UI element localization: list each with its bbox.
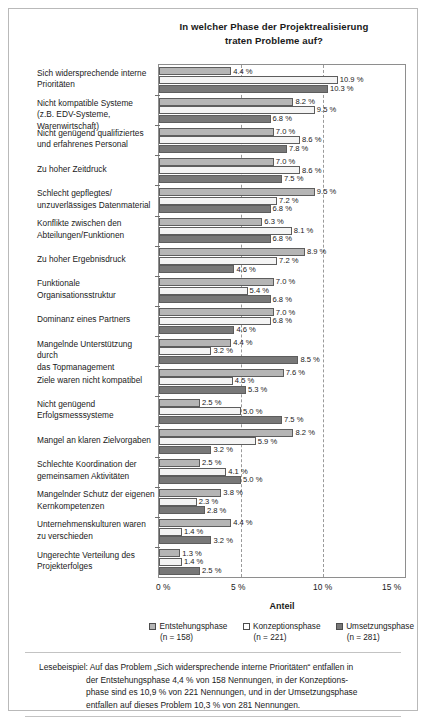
axis-tick-3 (155, 155, 160, 156)
bar-16-0[interactable] (159, 549, 180, 557)
footer-line-2: der Entstehungsphase 4,4 % von 158 Nennu… (39, 674, 394, 687)
bar-value-label-3-2: 7.5 % (284, 175, 303, 183)
category-label-14-line-0: Mangelnder Schutz der eigenen (37, 489, 155, 500)
bar-2-0[interactable] (159, 128, 274, 136)
bar-1-1[interactable] (159, 106, 315, 114)
bar-value-label-12-0: 8.2 % (295, 429, 314, 437)
bar-10-1[interactable] (159, 377, 233, 385)
bar-12-0[interactable] (159, 429, 293, 437)
bar-11-1[interactable] (159, 407, 241, 415)
axis-tick-12 (155, 426, 160, 427)
category-label-0: Sich widersprechende internePrioritäten (37, 68, 155, 91)
bar-9-1[interactable] (159, 347, 211, 355)
category-label-2-line-1: und erfahrenes Personal (37, 139, 155, 150)
bar-7-0[interactable] (159, 278, 274, 286)
bar-value-label-5-0: 6.3 % (264, 218, 283, 226)
bar-13-1[interactable] (159, 468, 226, 476)
category-label-14-line-1: Kernkompetenzen (37, 501, 155, 512)
bar-2-1[interactable] (159, 136, 300, 144)
legend-count-2: (n = 281) (347, 632, 380, 643)
chart-title-line-1: In welcher Phase der Projektrealisierung (179, 21, 368, 32)
legend-label-0: Entstehungsphase (160, 621, 228, 632)
bar-value-label-7-0: 7.0 % (276, 278, 295, 286)
bar-10-0[interactable] (159, 369, 284, 377)
bar-4-1[interactable] (159, 197, 277, 205)
category-label-2: Nicht genügend qualifiziertesund erfahre… (37, 128, 155, 151)
category-label-5-line-1: Abteilungen/Funktionen (37, 230, 155, 241)
bar-value-label-5-2: 6.8 % (273, 235, 292, 243)
bar-8-0[interactable] (159, 308, 274, 316)
bar-0-1[interactable] (159, 76, 338, 84)
axis-tick-13 (155, 457, 160, 458)
bar-value-label-14-0: 3.8 % (223, 489, 242, 497)
bar-13-2[interactable] (159, 476, 241, 484)
axis-tick-8 (155, 306, 160, 307)
bar-value-label-9-2: 8.5 % (300, 356, 319, 364)
bar-6-0[interactable] (159, 248, 305, 256)
category-label-11-line-1: Erfolgsmesssysteme (37, 410, 155, 421)
bar-8-2[interactable] (159, 326, 234, 334)
bar-value-label-4-2: 6.8 % (273, 205, 292, 213)
bar-value-label-13-0: 2.5 % (202, 459, 221, 467)
bar-1-0[interactable] (159, 98, 293, 106)
category-label-4: Schlecht gepflegtes/unzuverlässiges Date… (37, 188, 155, 211)
bar-4-2[interactable] (159, 205, 271, 213)
bar-7-1[interactable] (159, 287, 248, 295)
bar-value-label-7-1: 5.4 % (250, 287, 269, 295)
bar-8-1[interactable] (159, 317, 271, 325)
category-label-12: Mangel an klaren Zielvorgaben (37, 435, 155, 446)
bar-9-0[interactable] (159, 339, 231, 347)
bar-0-2[interactable] (159, 85, 328, 93)
bar-5-0[interactable] (159, 218, 262, 226)
category-label-12-line-0: Mangel an klaren Zielvorgaben (37, 435, 155, 446)
category-label-4-line-0: Schlecht gepflegtes/ (37, 188, 155, 199)
bar-2-2[interactable] (159, 145, 287, 153)
bar-6-1[interactable] (159, 257, 277, 265)
bar-15-2[interactable] (159, 536, 211, 544)
bar-14-2[interactable] (159, 506, 205, 514)
bar-value-label-12-2: 3.2 % (213, 446, 232, 454)
bar-14-0[interactable] (159, 489, 221, 497)
category-label-7-line-0: Funktionale (37, 278, 155, 289)
bar-6-2[interactable] (159, 265, 234, 273)
axis-tick-1 (155, 95, 160, 96)
legend-count-1: (n = 221) (254, 632, 287, 643)
bar-5-1[interactable] (159, 227, 292, 235)
bar-12-2[interactable] (159, 446, 211, 454)
bar-5-2[interactable] (159, 235, 271, 243)
bar-15-1[interactable] (159, 528, 182, 536)
bar-14-1[interactable] (159, 498, 197, 506)
bar-value-label-15-0: 4.4 % (233, 519, 252, 527)
category-label-0-line-1: Prioritäten (37, 79, 155, 90)
x-tick-label-3: 15 % (382, 582, 401, 592)
x-tick-label-2: 10 % (313, 582, 332, 592)
bar-value-label-12-1: 5.9 % (258, 438, 277, 446)
bar-value-label-0-2: 10.3 % (330, 85, 354, 93)
bar-1-2[interactable] (159, 115, 271, 123)
bar-value-label-0-0: 4.4 % (233, 68, 252, 76)
category-label-5: Konflikte zwischen denAbteilungen/Funkti… (37, 218, 155, 241)
bar-16-1[interactable] (159, 558, 182, 566)
bar-0-0[interactable] (159, 67, 231, 75)
bar-13-0[interactable] (159, 459, 200, 467)
axis-tick-6 (155, 246, 160, 247)
bar-3-2[interactable] (159, 175, 282, 183)
bar-7-2[interactable] (159, 295, 271, 303)
bar-3-0[interactable] (159, 158, 274, 166)
category-label-0-line-0: Sich widersprechende interne (37, 68, 155, 79)
bar-value-label-4-0: 9.5 % (317, 188, 336, 196)
x-tick-label-1: 5 % (231, 582, 245, 592)
bar-11-2[interactable] (159, 416, 282, 424)
bar-4-0[interactable] (159, 188, 315, 196)
axis-tick-11 (155, 396, 160, 397)
bar-12-1[interactable] (159, 437, 256, 445)
category-label-3: Zu hoher Zeitdruck (37, 164, 155, 175)
bar-3-1[interactable] (159, 166, 300, 174)
bar-11-0[interactable] (159, 399, 200, 407)
category-label-15-line-1: zu verschieden (37, 531, 155, 542)
bar-15-0[interactable] (159, 519, 231, 527)
bar-16-2[interactable] (159, 567, 200, 575)
bar-9-2[interactable] (159, 356, 298, 364)
bar-10-2[interactable] (159, 386, 246, 394)
legend-item-umsetzungsphase: Umsetzungsphase (n = 281) (336, 621, 414, 643)
